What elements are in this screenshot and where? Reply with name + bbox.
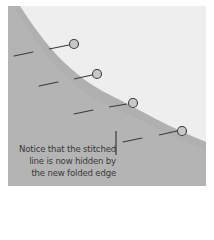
pin-head-icon — [70, 40, 79, 49]
caption-line-2: line is now hidden by — [0, 155, 116, 167]
caption-line-3: the new folded edge — [0, 167, 116, 179]
annotation-caption: Notice that the stitched line is now hid… — [0, 143, 116, 180]
pin-head-icon — [129, 99, 138, 108]
pin-head-icon — [178, 127, 187, 136]
caption-line-1: Notice that the stitched — [0, 143, 116, 155]
pin-head-icon — [93, 70, 102, 79]
